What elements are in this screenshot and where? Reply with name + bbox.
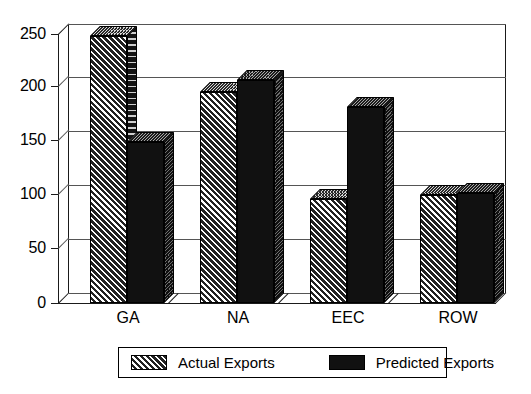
y-tick-label-150: 150 — [4, 132, 46, 148]
y-axis-front-line — [58, 34, 59, 304]
y-tick-label-100: 100 — [4, 186, 46, 202]
perspective-connector-bottom-left — [58, 292, 69, 303]
x-tick-label-row: ROW — [413, 310, 503, 326]
legend-swatch-actual-icon — [131, 355, 167, 370]
y-tick-label-0: 0 — [4, 295, 46, 311]
x-tick-label-na: NA — [193, 310, 283, 326]
bar-na-predicted-face — [237, 80, 274, 303]
legend-label-actual: Actual Exports — [178, 355, 275, 370]
bar-ga-actual-face — [90, 36, 127, 303]
x-tick-label-ga: GA — [83, 310, 173, 326]
bar-ga-predicted-side — [164, 132, 174, 303]
bar-row-predicted-side — [494, 183, 504, 303]
plot-area: 0 50 100 150 200 250 — [0, 0, 531, 394]
y-tick-50 — [51, 248, 58, 249]
legend-label-predicted: Predicted Exports — [376, 355, 494, 370]
x-axis-front-line — [58, 303, 496, 304]
bar-na-predicted-side — [274, 70, 284, 303]
y-tick-label-50: 50 — [4, 240, 46, 256]
y-tick-label-200: 200 — [4, 78, 46, 94]
bar-eec-predicted-face — [347, 107, 384, 303]
bar-eec-predicted-side — [384, 97, 394, 303]
bar-row-predicted-face — [457, 193, 494, 303]
y-tick-label-250: 250 — [4, 26, 46, 42]
chart-legend: Actual Exports Predicted Exports — [118, 347, 447, 378]
y-tick-100 — [51, 194, 58, 195]
bar-eec-actual-face — [310, 199, 347, 303]
y-tick-200 — [51, 86, 58, 87]
y-tick-0 — [51, 303, 58, 304]
y-axis-back-line — [68, 24, 69, 294]
gridline-250 — [68, 24, 506, 25]
bar-na-actual-face — [200, 92, 237, 303]
legend-swatch-predicted-icon — [329, 355, 365, 370]
y-tick-250 — [51, 34, 58, 35]
legend-item-predicted-exports: Predicted Exports — [329, 355, 494, 370]
bar-row-actual-face — [420, 195, 457, 303]
legend-item-actual-exports: Actual Exports — [131, 355, 275, 370]
plot-right-edge — [505, 24, 506, 294]
bar-chart-figure: 0 50 100 150 200 250 — [0, 0, 531, 394]
bar-ga-predicted-face — [127, 142, 164, 303]
x-tick-label-eec: EEC — [303, 310, 393, 326]
y-tick-150 — [51, 140, 58, 141]
